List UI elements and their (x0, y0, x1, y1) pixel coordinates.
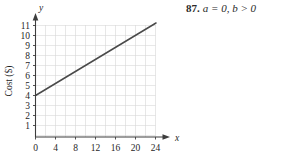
graph-svg: 1 2 3 4 5 6 7 8 9 10 11 0 4 8 12 16 20 2… (0, 0, 186, 158)
x-tick-labels: 0 4 8 12 16 20 24 (33, 143, 160, 153)
y-tick-label: 9 (25, 41, 30, 51)
y-tick-label: 3 (25, 101, 30, 111)
y-tick-label: 10 (21, 31, 31, 41)
x-axis-arrow (163, 134, 171, 140)
y-tick-label: 4 (25, 91, 30, 101)
answer-number: 87. (186, 2, 200, 14)
x-tick-label: 12 (91, 143, 101, 153)
y-axis-variable-label: y (38, 3, 44, 13)
y-tick-label: 6 (25, 71, 30, 81)
y-tick-label: 5 (25, 81, 30, 91)
y-tick-label: 2 (25, 111, 30, 121)
y-tick-label: 11 (21, 21, 30, 31)
x-tick-label: 20 (131, 143, 141, 153)
y-axis-arrow (33, 13, 39, 21)
x-tick-label: 16 (111, 143, 121, 153)
y-tick-label: 8 (25, 51, 30, 61)
y-tick-label: 7 (25, 61, 30, 71)
y-axis-title: Cost ($) (4, 66, 15, 97)
x-tick-label: 4 (53, 143, 58, 153)
x-tick-label: 24 (151, 143, 161, 153)
grid-vertical (36, 25, 156, 137)
answer-text: 87.a = 0, b > 0 (186, 2, 256, 15)
x-axis-variable-label: x (174, 133, 180, 143)
y-tick-labels: 1 2 3 4 5 6 7 8 9 10 11 (21, 21, 31, 131)
cost-line-graph: 1 2 3 4 5 6 7 8 9 10 11 0 4 8 12 16 20 2… (0, 0, 186, 158)
x-tick-label: 0 (33, 143, 38, 153)
x-tick-label: 8 (73, 143, 78, 153)
answer-expression: a = 0, b > 0 (200, 2, 256, 14)
y-tick-label: 1 (25, 121, 30, 131)
